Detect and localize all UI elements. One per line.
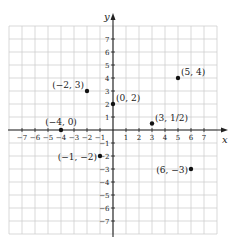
point-marker-icon <box>176 76 180 80</box>
point-label: (0, 2) <box>116 93 140 103</box>
point-marker-icon <box>111 102 115 106</box>
x-tick-label: −5 <box>43 134 53 142</box>
y-tick-label: −4 <box>99 179 110 187</box>
y-tick-label: 1 <box>105 114 109 122</box>
x-axis-arrow-icon <box>221 128 228 133</box>
y-tick-label: −5 <box>99 192 109 200</box>
y-tick-label: 7 <box>105 36 109 44</box>
y-axis-label: y <box>103 11 110 22</box>
data-point: (6, −3) <box>156 165 193 175</box>
point-label: (−4, 0) <box>45 117 77 127</box>
point-label: (−1, −2) <box>58 152 97 162</box>
y-axis-arrow-icon <box>111 13 116 20</box>
y-tick-label: 6 <box>105 49 110 57</box>
data-points: (−2, 3)(0, 2)(5, 4)(−4, 0)(3, 1/2)(−1, −… <box>45 67 205 175</box>
x-tick-label: 2 <box>137 134 141 142</box>
axes <box>8 13 228 237</box>
point-marker-icon <box>59 128 63 132</box>
data-point: (−1, −2) <box>58 152 102 162</box>
y-tick-label: −6 <box>99 205 110 213</box>
y-tick-label: −3 <box>99 166 109 174</box>
y-tick-label: −7 <box>99 218 109 226</box>
x-tick-label: −7 <box>17 134 27 142</box>
point-marker-icon <box>85 89 89 93</box>
x-tick-label: 6 <box>189 134 194 142</box>
y-tick-label: 3 <box>105 88 109 96</box>
point-label: (3, 1/2) <box>155 113 188 123</box>
point-label: (6, −3) <box>156 165 188 175</box>
x-axis-label: x <box>222 134 228 145</box>
x-tick-label: −4 <box>56 134 67 142</box>
point-marker-icon <box>189 167 193 171</box>
point-marker-icon <box>150 121 154 125</box>
x-tick-label: 5 <box>176 134 180 142</box>
x-tick-label: −3 <box>69 134 79 142</box>
coordinate-plane: −7−6−5−4−3−2−11234567−7−6−5−4−3−2−112345… <box>0 0 243 245</box>
y-tick-label: 5 <box>105 62 109 70</box>
point-label: (−2, 3) <box>52 80 84 90</box>
point-label: (5, 4) <box>181 67 205 77</box>
y-tick-label: 4 <box>105 75 110 83</box>
x-tick-label: 4 <box>163 134 168 142</box>
data-point: (3, 1/2) <box>150 113 188 126</box>
point-marker-icon <box>98 154 102 158</box>
x-tick-label: 1 <box>124 134 128 142</box>
x-tick-label: 7 <box>202 134 206 142</box>
x-tick-label: −6 <box>30 134 41 142</box>
x-tick-label: −2 <box>82 134 92 142</box>
y-tick-label: 2 <box>105 101 109 109</box>
x-tick-label: 3 <box>150 134 154 142</box>
y-tick-label: −1 <box>99 140 109 148</box>
